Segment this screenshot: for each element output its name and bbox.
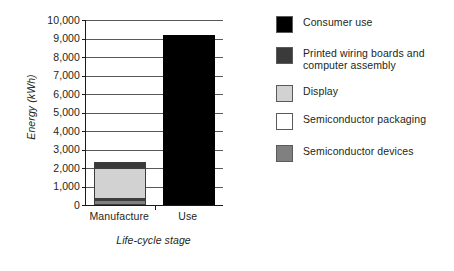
y-axis-tick-label: 4,000 xyxy=(24,126,80,137)
legend-label: Display xyxy=(303,85,338,97)
legend-swatch-icon xyxy=(276,16,293,33)
y-axis-tickmark xyxy=(82,76,86,77)
y-axis-tickmark xyxy=(82,113,86,114)
y-axis-tickmark xyxy=(82,168,86,169)
y-axis-tickmark xyxy=(82,20,86,21)
y-axis-tick-label: 0 xyxy=(24,200,80,211)
gridline xyxy=(86,20,223,21)
y-axis-tick-label: 5,000 xyxy=(24,107,80,118)
legend-swatch-icon xyxy=(276,145,293,162)
stacked-bar-chart: Energy (kWh) 10,0009,0008,0007,0006,0005… xyxy=(0,0,454,271)
y-axis-tick-label: 1,000 xyxy=(24,181,80,192)
legend-item[interactable]: Semiconductor packaging xyxy=(276,113,426,130)
y-axis-tick-label: 2,000 xyxy=(24,163,80,174)
legend-label: Semiconductor packaging xyxy=(303,113,426,125)
x-axis-tick-label: Manufacture xyxy=(85,210,154,222)
legend-swatch-icon xyxy=(276,47,293,64)
legend-label: Consumer use xyxy=(303,16,372,28)
y-axis-tickmark xyxy=(82,205,86,206)
y-axis-tickmark xyxy=(82,150,86,151)
y-axis-tick-label: 9,000 xyxy=(24,33,80,44)
bar-manufacture[interactable] xyxy=(94,162,146,205)
plot-area xyxy=(85,20,223,206)
bar-segment-consumer-use[interactable] xyxy=(163,35,215,205)
legend-swatch-icon xyxy=(276,85,293,102)
legend-item[interactable]: Consumer use xyxy=(276,16,372,33)
bar-segment-semiconductor-devices[interactable] xyxy=(94,200,146,205)
legend-item[interactable]: Printed wiring boards and computer assem… xyxy=(276,47,425,72)
y-axis-tick-label-group: 10,0009,0008,0007,0006,0005,0004,0003,00… xyxy=(24,14,80,208)
y-axis-tick-label: 7,000 xyxy=(24,70,80,81)
y-axis-tickmark xyxy=(82,57,86,58)
y-axis-tickmark xyxy=(82,131,86,132)
legend-item[interactable]: Display xyxy=(276,85,338,102)
legend-label: Printed wiring boards and computer assem… xyxy=(303,47,425,72)
bar-segment-display[interactable] xyxy=(94,168,146,199)
y-axis-tickmark xyxy=(82,94,86,95)
y-axis-tick-label: 3,000 xyxy=(24,144,80,155)
bar-segment-printed-wiring-boards-and-computer-assembly[interactable] xyxy=(94,162,146,168)
legend-label: Semiconductor devices xyxy=(303,145,414,157)
y-axis-tick-label: 6,000 xyxy=(24,89,80,100)
legend-item[interactable]: Semiconductor devices xyxy=(276,145,414,162)
y-axis-tick-label: 8,000 xyxy=(24,52,80,63)
y-axis-tickmark xyxy=(82,39,86,40)
legend-swatch-icon xyxy=(276,113,293,130)
y-axis-tickmark xyxy=(82,187,86,188)
y-axis-tick-label: 10,000 xyxy=(24,15,80,26)
x-axis-title: Life-cycle stage xyxy=(85,234,222,246)
bar-segment-semiconductor-packaging[interactable] xyxy=(94,198,146,200)
x-axis-tick-label: Use xyxy=(154,210,223,222)
bar-use[interactable] xyxy=(163,35,215,205)
